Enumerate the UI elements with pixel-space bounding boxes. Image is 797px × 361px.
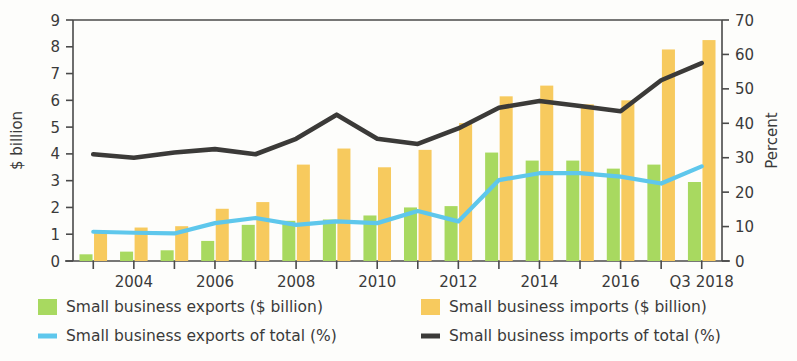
y-axis-left-tick-label: 6 bbox=[50, 92, 60, 110]
bar-imports bbox=[581, 104, 594, 261]
bar-exports bbox=[323, 219, 336, 261]
bar-imports bbox=[216, 209, 229, 261]
bar-exports bbox=[607, 169, 620, 261]
legend-swatch-imports bbox=[421, 299, 440, 315]
x-axis-tick-label: 2010 bbox=[358, 273, 396, 291]
y-axis-left-tick-label: 4 bbox=[50, 145, 60, 163]
legend-item: Small business imports ($ billion) bbox=[421, 298, 707, 316]
bar-imports bbox=[94, 233, 107, 261]
bar-imports bbox=[337, 149, 350, 261]
y-axis-left-tick-label: 0 bbox=[50, 253, 60, 271]
legend-item: Small business exports of total (%) bbox=[38, 327, 337, 345]
y-axis-right-tick-label: 30 bbox=[735, 149, 754, 167]
legend-swatch-exports bbox=[38, 299, 57, 315]
bar-imports bbox=[419, 150, 432, 261]
y-axis-right-tick-label: 10 bbox=[735, 218, 754, 236]
y-axis-left-tick-label: 1 bbox=[50, 226, 60, 244]
y-axis-right-title: Percent bbox=[763, 112, 781, 169]
y-axis-left-tick-label: 5 bbox=[50, 119, 60, 137]
bar-exports bbox=[647, 165, 660, 261]
x-axis-tick-label: 2004 bbox=[115, 273, 153, 291]
x-axis-tick-label: 2012 bbox=[439, 273, 477, 291]
x-axis-tick-label: 2006 bbox=[196, 273, 234, 291]
bar-exports bbox=[566, 161, 579, 261]
y-axis-right-tick-label: 60 bbox=[735, 46, 754, 64]
bar-imports bbox=[459, 123, 472, 261]
bar-exports bbox=[120, 252, 133, 261]
y-axis-left-title: $ billion bbox=[8, 111, 26, 170]
y-axis-left-tick-label: 9 bbox=[50, 12, 60, 30]
legend-item: Small business imports of total (%) bbox=[421, 327, 721, 345]
y-axis-left-tick-label: 8 bbox=[50, 38, 60, 56]
legend-item-label: Small business imports of total (%) bbox=[449, 327, 721, 345]
bar-exports bbox=[242, 225, 255, 261]
legend-item-label: Small business exports ($ billion) bbox=[66, 298, 323, 316]
bar-exports bbox=[485, 153, 498, 261]
y-axis-right-tick-label: 50 bbox=[735, 80, 754, 98]
y-axis-right-tick-label: 0 bbox=[735, 253, 745, 271]
legend-item-label: Small business exports of total (%) bbox=[66, 327, 337, 345]
x-axis-tick-label: 2016 bbox=[602, 273, 640, 291]
bar-exports bbox=[445, 206, 458, 261]
bar-imports bbox=[256, 202, 269, 261]
chart-container: 0123456789010203040506070200420062008201… bbox=[0, 0, 797, 361]
line-imports-share bbox=[93, 63, 701, 158]
x-axis-tick-label: 2014 bbox=[520, 273, 558, 291]
bar-exports bbox=[79, 254, 92, 261]
y-axis-left-tick-label: 2 bbox=[50, 199, 60, 217]
x-axis-tick-label: 2008 bbox=[277, 273, 315, 291]
bar-exports bbox=[161, 250, 174, 261]
y-axis-right-tick-label: 40 bbox=[735, 115, 754, 133]
bar-exports bbox=[201, 241, 214, 261]
bar-imports bbox=[702, 40, 715, 261]
bar-imports bbox=[297, 165, 310, 261]
bar-exports bbox=[688, 182, 701, 261]
combo-chart: 0123456789010203040506070200420062008201… bbox=[0, 0, 797, 361]
bar-imports bbox=[378, 167, 391, 261]
y-axis-right-tick-label: 20 bbox=[735, 184, 754, 202]
legend-item-label: Small business imports ($ billion) bbox=[449, 298, 707, 316]
legend-item: Small business exports ($ billion) bbox=[38, 298, 323, 316]
bar-exports bbox=[282, 221, 295, 261]
y-axis-left-tick-label: 3 bbox=[50, 172, 60, 190]
y-axis-right-tick-label: 70 bbox=[735, 12, 754, 30]
x-axis-tick-label: Q3 2018 bbox=[670, 273, 734, 291]
y-axis-left-tick-label: 7 bbox=[50, 65, 60, 83]
